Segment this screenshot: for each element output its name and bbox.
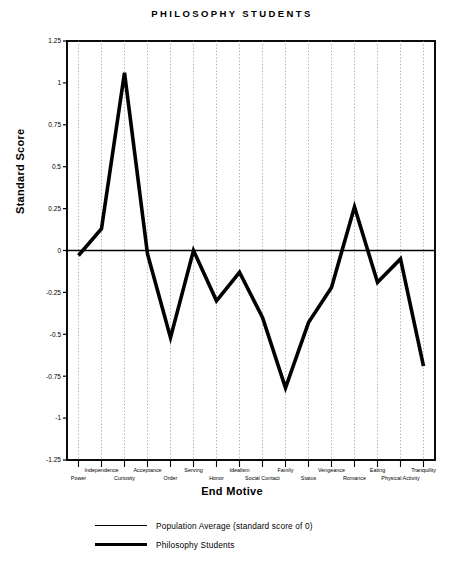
y-tick-label: 0.5 xyxy=(52,163,61,170)
x-tick-label: Independence xyxy=(84,467,118,473)
legend-item: Population Average (standard score of 0) xyxy=(95,516,395,535)
x-tick-label: Serving xyxy=(184,467,202,473)
y-tick-label: 1.25 xyxy=(48,37,61,44)
y-tick-label: 1 xyxy=(57,79,61,86)
legend-label: Philosophy Students xyxy=(156,540,235,550)
x-tick-label: Family xyxy=(278,467,294,473)
chart-legend: Population Average (standard score of 0)… xyxy=(95,516,395,554)
x-tick-label: Social Contact xyxy=(245,475,280,481)
x-tick-label: Acceptance xyxy=(133,467,161,473)
x-tick-label: Curiosity xyxy=(114,475,135,481)
x-tick-label: Honor xyxy=(209,475,224,481)
y-axis-title: Standard Score xyxy=(14,128,26,214)
y-tick-label: -0.75 xyxy=(46,373,61,380)
x-axis-title: End Motive xyxy=(0,485,464,497)
legend-label: Population Average (standard score of 0) xyxy=(156,521,313,531)
y-tick-label: 0.75 xyxy=(48,121,61,128)
legend-swatch-philosophy-students xyxy=(95,543,147,546)
x-tick-label: Tranquility xyxy=(411,467,436,473)
y-tick-label: -1.25 xyxy=(46,456,61,463)
x-tick-label: Romance xyxy=(343,475,366,481)
x-tick-label: Vengeance xyxy=(318,467,345,473)
legend-swatch-population-average xyxy=(95,525,147,526)
y-tick-label: 0.25 xyxy=(48,205,61,212)
x-tick-label: Status xyxy=(301,475,317,481)
x-tick-label: Physical Activity xyxy=(381,475,420,481)
x-tick-label: Order xyxy=(164,475,178,481)
x-tick-label: Idealism xyxy=(229,467,250,473)
y-tick-label: 0 xyxy=(57,247,61,254)
y-tick-label: -0.5 xyxy=(50,331,62,338)
x-tick-label: Eating xyxy=(370,467,385,473)
y-tick-label: -1 xyxy=(55,414,61,421)
x-tick-label: Power xyxy=(71,475,86,481)
data-line-philosophy-students xyxy=(79,73,424,388)
y-tick-label: -0.25 xyxy=(46,289,61,296)
legend-item: Philosophy Students xyxy=(95,535,395,554)
